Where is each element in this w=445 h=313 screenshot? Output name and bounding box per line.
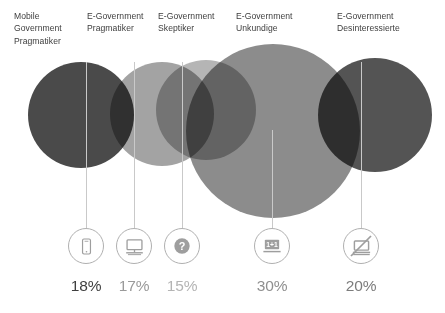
crossed-out-slash-icon (343, 228, 379, 264)
connector-line-1 (86, 62, 87, 228)
percent-e-government-skeptiker: 15% (152, 277, 212, 295)
connector-line-5 (361, 62, 362, 228)
laptop-one-plus-one-icon: 1+1 (261, 235, 283, 257)
connector-line-3 (182, 62, 183, 228)
question-mark-circle-icon: ? (172, 236, 192, 256)
connector-line-2 (134, 62, 135, 228)
icon-badge-e-government-unkundige[interactable]: 1+1 (254, 228, 290, 264)
percent-e-government-desinteressierte: 20% (331, 277, 391, 295)
percent-e-government-unkundige: 30% (242, 277, 302, 295)
venn-circle-group (0, 0, 445, 313)
icon-badge-e-government-skeptiker[interactable]: ? (164, 228, 200, 264)
smartphone-icon (77, 237, 96, 256)
desktop-monitor-icon (124, 236, 145, 257)
icon-badge-e-government-pragmatiker[interactable] (116, 228, 152, 264)
segmentation-infographic: Mobile Government Pragmatiker E-Governme… (0, 0, 445, 313)
icon-badge-mobile-government-pragmatiker[interactable] (68, 228, 104, 264)
circle-e-government-desinteressierte (318, 58, 432, 172)
svg-text:?: ? (179, 240, 186, 252)
svg-text:1+1: 1+1 (266, 241, 278, 248)
connector-line-4 (272, 130, 273, 228)
